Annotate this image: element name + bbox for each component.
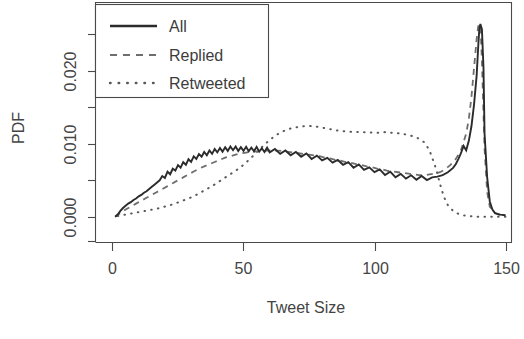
chart-legend: All Replied Retweeted [96, 5, 269, 98]
x-tick-label-50: 50 [235, 260, 253, 277]
x-tick-label-150: 150 [493, 260, 520, 277]
x-axis-tick-labels: 0 50 100 150 [108, 260, 520, 277]
y-axis-tick-labels: 0.020 0.010 0.000 [62, 51, 79, 237]
legend-label-all: All [169, 18, 187, 35]
x-tick-label-0: 0 [108, 260, 117, 277]
y-axis-title: PDF [10, 112, 27, 144]
legend-label-replied: Replied [169, 47, 223, 64]
x-tick-label-100: 100 [362, 260, 389, 277]
y-tick-label-0000: 0.000 [62, 197, 79, 237]
legend-label-retweeted: Retweeted [169, 75, 246, 92]
x-axis-title: Tweet Size [267, 299, 345, 316]
y-axis-ticks [88, 35, 95, 242]
x-axis-ticks [113, 243, 507, 251]
chart-figure: 0.020 0.010 0.000 PDF 0 50 100 150 Tweet… [0, 0, 524, 339]
y-tick-label-0010: 0.010 [62, 124, 79, 164]
y-tick-label-0020: 0.020 [62, 51, 79, 91]
pdf-line-chart: 0.020 0.010 0.000 PDF 0 50 100 150 Tweet… [0, 0, 524, 339]
